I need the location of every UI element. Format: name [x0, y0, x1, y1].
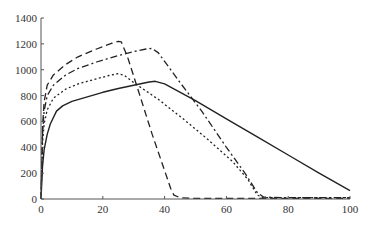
series-line-dash-dot	[41, 48, 350, 199]
x-tick-label: 20	[97, 203, 109, 215]
y-tick-label: 1400	[15, 12, 38, 24]
y-tick-label: 1200	[15, 38, 38, 50]
axes: 020406080100 0200400600800100012001400	[15, 12, 359, 215]
y-tick-label: 1000	[15, 64, 38, 76]
y-tick-label: 600	[21, 115, 38, 127]
y-tick-label: 200	[21, 167, 38, 179]
y-tick-label: 800	[21, 90, 38, 102]
series-line-solid	[41, 81, 350, 199]
x-tick-label: 40	[159, 203, 171, 215]
y-tick-label: 400	[21, 141, 38, 153]
y-tick-label: 0	[32, 193, 38, 205]
x-tick-label: 0	[38, 203, 44, 215]
series-line-dotted	[41, 74, 350, 199]
x-tick-label: 100	[342, 203, 359, 215]
y-ticks: 0200400600800100012001400	[15, 12, 44, 205]
x-tick-label: 60	[221, 203, 233, 215]
x-tick-label: 80	[283, 203, 295, 215]
line-chart: 020406080100 0200400600800100012001400	[0, 0, 370, 226]
plot-lines	[41, 41, 350, 199]
